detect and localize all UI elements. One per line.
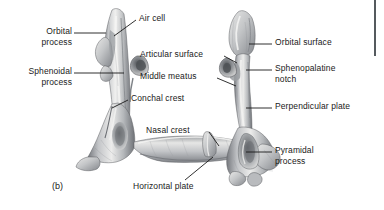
label-air-cell: Air cell bbox=[139, 13, 181, 24]
anatomical-figure: Orbital processSphenoidal processAir cel… bbox=[0, 0, 384, 210]
label-middle-meatus: Middle meatus bbox=[140, 71, 218, 82]
label-articular-surface: Articular surface bbox=[140, 49, 226, 60]
scan-edge-artifact bbox=[374, 0, 376, 56]
leader-air-cell bbox=[114, 20, 136, 36]
leader-conchal-crest bbox=[112, 100, 128, 108]
label-orbital-process: Orbital process bbox=[14, 26, 72, 47]
label-pyramidal-process: Pyramidal process bbox=[275, 145, 337, 166]
label-horizontal-plate: Horizontal plate bbox=[133, 181, 217, 192]
label-nasal-crest: Nasal crest bbox=[146, 125, 210, 136]
leader-nasal-crest bbox=[209, 132, 219, 146]
label-sphenoidal-process: Sphenoidal process bbox=[6, 66, 72, 87]
leader-horizontal-plate bbox=[185, 157, 213, 180]
label-perpendicular-plate: Perpendicular plate bbox=[275, 101, 375, 112]
label-conchal-crest: Conchal crest bbox=[131, 93, 207, 104]
label-orbital-surface: Orbital surface bbox=[275, 37, 355, 48]
leader-middle-meatus bbox=[217, 78, 236, 86]
label-sphenopalatine-notch: Sphenopalatine notch bbox=[275, 63, 361, 84]
figure-caption: (b) bbox=[52, 181, 63, 191]
